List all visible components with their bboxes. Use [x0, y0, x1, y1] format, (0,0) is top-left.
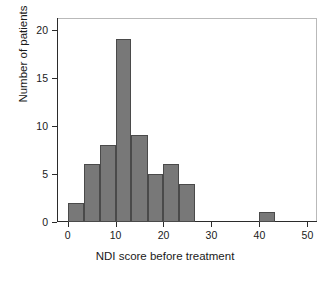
y-tick-label: 15	[36, 73, 48, 84]
x-tick-mark	[307, 222, 308, 227]
x-tick-mark	[68, 222, 69, 227]
x-tick-label: 20	[158, 230, 170, 241]
x-tick-label: 40	[254, 230, 266, 241]
x-tick-mark	[211, 222, 212, 227]
y-axis-line	[57, 18, 58, 222]
y-tick-label: 10	[36, 121, 48, 132]
x-tick-label: 0	[65, 230, 71, 241]
histogram-figure: 05101520 01020304050 Number of patients …	[0, 0, 330, 283]
x-tick-label: 50	[302, 230, 314, 241]
y-tick-label: 5	[42, 169, 48, 180]
x-tick-mark	[259, 222, 260, 227]
x-axis-line	[57, 221, 317, 222]
x-tick-label: 30	[206, 230, 218, 241]
y-tick-mark	[52, 126, 57, 127]
x-tick-mark	[163, 222, 164, 227]
y-axis-title: Number of patients	[17, 0, 29, 139]
x-tick-mark	[116, 222, 117, 227]
y-tick-mark	[52, 30, 57, 31]
x-tick-label: 10	[110, 230, 122, 241]
y-tick-mark	[52, 174, 57, 175]
y-tick-label: 20	[36, 25, 48, 36]
plot-frame	[57, 18, 317, 222]
y-tick-mark	[52, 222, 57, 223]
x-axis-title: NDI score before treatment	[0, 250, 330, 262]
y-tick-label: 0	[42, 217, 48, 228]
y-tick-mark	[52, 78, 57, 79]
